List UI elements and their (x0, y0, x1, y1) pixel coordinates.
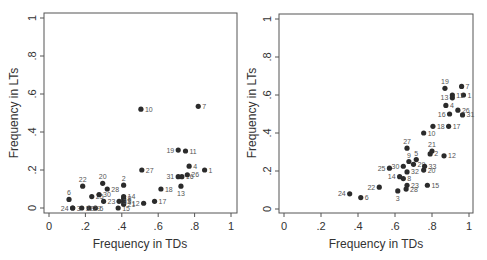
data-point (178, 184, 183, 189)
y-tick-label: 0 (26, 205, 38, 211)
point-label: 3 (396, 195, 400, 202)
y-tick-label: .6 (26, 89, 38, 98)
data-point (404, 186, 409, 191)
data-point (347, 191, 352, 196)
x-axis-title: Frequency in TDs (329, 237, 423, 251)
point-label: 29 (93, 205, 101, 212)
data-point (202, 167, 207, 172)
point-label: 10 (145, 106, 153, 113)
x-tick-label: .8 (190, 220, 199, 232)
point-label: 19 (441, 78, 449, 85)
point-label: 22 (79, 176, 87, 183)
point-label: 16 (438, 111, 446, 118)
data-point (450, 95, 455, 100)
scatter-plot-left: Frequency in LTs Frequency in TDs 0.2.4.… (0, 0, 243, 260)
point-label: 13 (441, 94, 449, 101)
x-tick-label: 0 (281, 220, 287, 232)
point-label: 17 (159, 198, 167, 205)
data-point (196, 104, 201, 109)
plot-area: 0.2.4.6.810.2.4.6.8112345678910111213141… (261, 14, 474, 232)
point-label: 30 (392, 163, 400, 170)
x-tick-label: .2 (81, 220, 90, 232)
point-label: 27 (146, 167, 154, 174)
data-point (158, 186, 163, 191)
data-point (404, 146, 409, 151)
point-label: 20 (99, 173, 107, 180)
point-label: 33 (429, 163, 437, 170)
point-label: 2 (122, 175, 126, 182)
data-point (460, 112, 465, 117)
data-point (441, 153, 446, 158)
point-label: 25 (378, 165, 386, 172)
scatter-plot-right: Frequency in LTs Frequency in TDs 0.2.4.… (243, 0, 487, 260)
y-tick-label: .8 (26, 51, 38, 60)
point-label: 33 (123, 198, 131, 205)
data-point (377, 185, 382, 190)
point-label: 26 (191, 171, 199, 178)
data-point (404, 169, 409, 174)
point-label: 2 (434, 150, 438, 157)
point-label: 5 (414, 150, 418, 157)
data-point (176, 147, 181, 152)
plot-area: 0.2.4.6.810.2.4.6.8112345678910111213141… (26, 13, 237, 232)
point-label: 22 (367, 184, 375, 191)
point-label: 31 (467, 111, 475, 118)
x-tick-label: .4 (117, 220, 126, 232)
point-label: 28 (410, 186, 418, 193)
point-label: 23 (108, 198, 116, 205)
x-tick-label: 1 (466, 220, 472, 232)
plot-frame (44, 13, 237, 213)
data-point (455, 108, 460, 113)
data-point (80, 184, 85, 189)
point-label: 12 (448, 152, 456, 159)
point-label: 9 (407, 152, 411, 159)
point-label: 27 (403, 138, 411, 145)
data-point (430, 124, 435, 129)
data-point (401, 164, 406, 169)
point-label: 1 (467, 92, 471, 99)
point-label: 18 (437, 123, 445, 130)
point-label: 11 (190, 148, 197, 155)
point-label: 4 (193, 163, 197, 170)
x-tick-label: 0 (46, 220, 52, 232)
data-point (442, 86, 447, 91)
data-point (139, 167, 144, 172)
point-label: 6 (67, 189, 71, 196)
point-label: 24 (61, 205, 69, 212)
point-label: 28 (111, 186, 119, 193)
y-tick-label: 1 (26, 15, 38, 21)
data-point (70, 205, 75, 210)
point-label: 6 (365, 194, 369, 201)
point-label: 15 (431, 182, 439, 189)
point-label: 21 (428, 141, 436, 148)
point-label: 18 (165, 186, 173, 193)
y-tick-label: 0 (261, 206, 273, 212)
point-label: 14 (388, 173, 396, 180)
data-point (66, 197, 71, 202)
data-point (358, 195, 363, 200)
data-point (425, 183, 430, 188)
data-point (421, 130, 426, 135)
point-label: 19 (166, 147, 174, 154)
data-point (443, 103, 448, 108)
data-point (411, 162, 416, 167)
point-label: 4 (450, 102, 454, 109)
point-label: 32 (86, 205, 94, 212)
data-point (183, 148, 188, 153)
data-point (185, 172, 190, 177)
data-point (176, 174, 181, 179)
point-label: 7 (466, 83, 470, 90)
data-point (96, 192, 101, 197)
y-axis-title: Frequency in LTs (7, 68, 21, 159)
point-label: 30 (103, 191, 111, 198)
y-tick-label: .2 (261, 166, 273, 175)
point-label: 31 (166, 173, 174, 180)
y-tick-label: .2 (26, 165, 38, 174)
data-point (429, 148, 434, 153)
point-label: 11 (456, 92, 463, 99)
y-tick-label: .4 (26, 127, 38, 136)
y-tick-label: 1 (261, 16, 273, 22)
data-point (141, 201, 146, 206)
data-point (138, 107, 143, 112)
x-tick-label: 1 (228, 220, 234, 232)
